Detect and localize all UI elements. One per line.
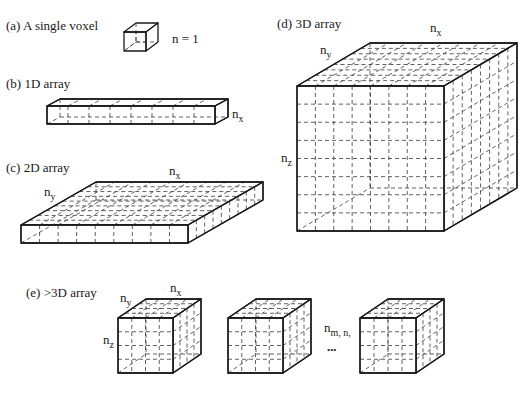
nz-label: nz: [103, 332, 115, 350]
panel-d-label: (d) 3D array: [277, 16, 342, 31]
panel-e-label: (e) >3D array: [26, 285, 97, 300]
ny-label: ny: [320, 42, 332, 60]
panel-d-3d-array: (d) 3D array nx ny nz: [277, 16, 517, 231]
panel-e-nd-array: (e) >3D array nx ny nz nm, n, •••: [26, 280, 444, 373]
nx-label: nx: [170, 280, 182, 298]
ellipsis-icon: •••: [327, 345, 336, 355]
panel-a-single-voxel: (a) A single voxel n = 1: [6, 18, 199, 51]
nz-label: nz: [281, 150, 293, 168]
panel-c-label: (c) 2D array: [6, 160, 70, 175]
3d-array-cube-icon: [297, 43, 517, 231]
ny-label: ny: [44, 184, 56, 202]
ny-label: ny: [120, 290, 132, 308]
voxel-array-diagram: (a) A single voxel n = 1 (b) 1D array nx…: [0, 0, 529, 393]
panel-b-1d-array: (b) 1D array nx: [6, 76, 244, 124]
panel-c-2d-array: (c) 2D array nx ny: [6, 160, 263, 243]
nx-label: nx: [232, 106, 244, 124]
1d-array-bar-icon: [47, 99, 228, 124]
voxel-count-label: n = 1: [172, 31, 199, 46]
nd-array-cube-3-icon: [360, 299, 444, 373]
nx-label: nx: [169, 163, 181, 181]
voxel-cube-icon: [124, 23, 158, 51]
nd-array-cube-1-icon: [118, 299, 201, 373]
nmn-label: nm, n,: [324, 320, 351, 338]
nd-array-cube-2-icon: [228, 299, 311, 373]
panel-a-label: (a) A single voxel: [6, 18, 98, 33]
panel-b-label: (b) 1D array: [6, 76, 71, 91]
nx-label: nx: [430, 20, 442, 38]
2d-array-slab-icon: [21, 182, 263, 243]
